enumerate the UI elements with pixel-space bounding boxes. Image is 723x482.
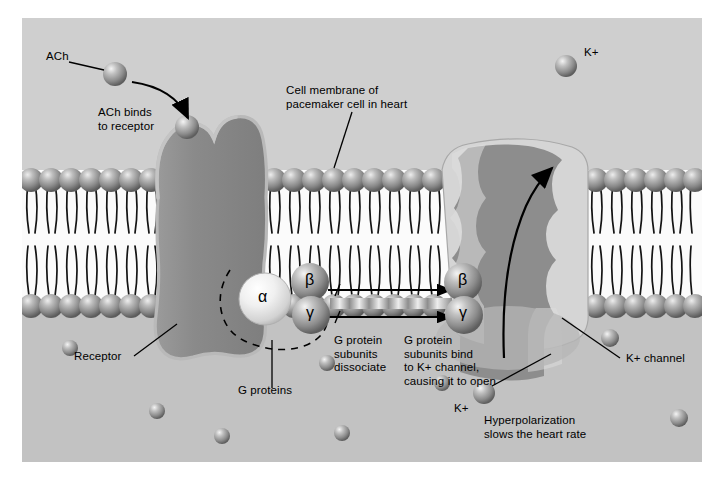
label-ach-binds: ACh binds to receptor: [98, 106, 154, 133]
beta-subunit-right-label: β: [458, 273, 467, 287]
label-g-proteins: G proteins: [238, 384, 292, 398]
beta-subunit-left-label: β: [305, 273, 314, 287]
label-bind-channel: G protein subunits bind to K+ channel, c…: [404, 334, 496, 388]
label-hyperpolarization: Hyperpolarization slows the heart rate: [484, 414, 586, 441]
cytoplasm: [22, 304, 702, 462]
label-cell-membrane: Cell membrane of pacemaker cell in heart: [286, 84, 407, 111]
gamma-subunit-right-label: γ: [459, 306, 467, 320]
diagram-canvas: ACh ACh binds to receptor Cell membrane …: [22, 18, 702, 462]
label-k-plus-top: K+: [584, 46, 599, 60]
ach-molecule-free: [103, 62, 127, 86]
figure-root: ACh ACh binds to receptor Cell membrane …: [0, 0, 723, 482]
gamma-subunit-left-label: γ: [306, 306, 314, 320]
label-k-channel: K+ channel: [626, 352, 685, 366]
alpha-subunit-label: α: [258, 290, 267, 304]
label-dissociate: G protein subunits dissociate: [334, 334, 386, 375]
label-receptor: Receptor: [74, 350, 121, 364]
label-k-plus-bottom: K+: [454, 402, 469, 416]
ach-molecule-bound: [175, 115, 199, 139]
lipid-heads-upper: [22, 168, 702, 192]
signal-band: [330, 298, 452, 309]
label-ach: ACh: [46, 50, 69, 64]
k-ion-extracellular: [555, 55, 577, 77]
receptor-protein: [155, 117, 266, 359]
